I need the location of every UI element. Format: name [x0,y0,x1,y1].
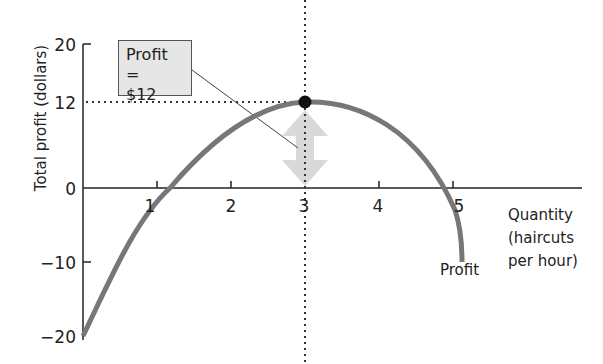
y-tick-neg20: −20 [40,327,76,347]
y-tick-neg10: −10 [40,253,76,273]
max-profit-point [299,96,312,109]
profit-curve [83,102,462,336]
profit-callout: Profit = $12 [118,40,192,96]
curve-label: Profit [440,261,479,279]
y-tick-20: 20 [54,35,76,55]
callout-line2: $12 [126,85,184,105]
x-tick-2: 2 [226,196,237,216]
profit-chart: 20 12 0 −10 −20 1 2 3 4 5 Total profit (… [0,0,603,364]
x-axis-title-line1: Quantity [508,206,573,224]
x-axis-title-line2: (haircuts [508,229,574,247]
y-tick-12: 12 [54,93,76,113]
x-tick-1: 1 [145,196,156,216]
y-tick-0: 0 [65,179,76,199]
callout-line1: Profit = [126,45,184,85]
callout-leader-line [192,70,298,148]
x-axis-title-line3: per hour) [508,252,578,270]
x-tick-3: 3 [299,196,310,216]
y-axis-title: Total profit (dollars) [32,45,50,192]
x-tick-4: 4 [373,196,384,216]
x-tick-5: 5 [454,196,465,216]
